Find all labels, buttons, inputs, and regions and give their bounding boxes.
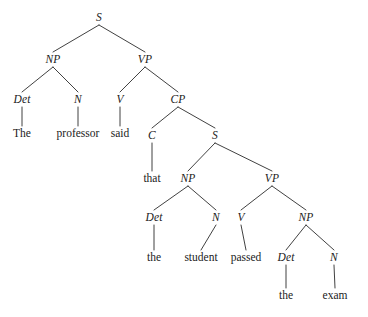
tree-node-np-1: NP <box>45 54 60 66</box>
tree-leaf-word-that: that <box>143 173 160 185</box>
tree-node-s-root: S <box>96 12 102 24</box>
tree-node-c-1: C <box>148 130 156 142</box>
tree-edge <box>145 67 178 92</box>
tree-edge <box>241 225 246 250</box>
tree-node-vp-2: VP <box>265 173 279 185</box>
tree-edge <box>215 143 272 171</box>
tree-edge <box>22 67 53 92</box>
tree-edge <box>201 225 216 250</box>
tree-leaf-word-the-3: the <box>279 290 293 302</box>
tree-node-vp-1: VP <box>138 54 152 66</box>
tree-node-det-1: Det <box>13 94 30 106</box>
tree-edge <box>188 143 215 171</box>
tree-edge <box>53 25 99 52</box>
tree-node-n-3: N <box>330 252 338 264</box>
tree-edge <box>306 225 334 250</box>
tree-edge <box>178 107 215 128</box>
tree-leaf-word-student: student <box>184 252 217 264</box>
tree-leaf-word-prof: professor <box>57 128 100 140</box>
tree-edge <box>53 67 78 92</box>
tree-edge <box>334 265 335 288</box>
tree-edge <box>241 186 272 210</box>
tree-edge <box>99 25 145 52</box>
tree-node-np-3: NP <box>298 212 313 224</box>
tree-node-n-2: N <box>212 212 220 224</box>
tree-node-s-embed: S <box>212 130 218 142</box>
tree-edge <box>286 225 306 250</box>
tree-edges-layer <box>0 0 368 317</box>
tree-leaf-word-said: said <box>111 128 130 140</box>
tree-node-v-2: V <box>237 212 244 224</box>
tree-leaf-word-the-1: The <box>13 128 31 140</box>
tree-edge <box>120 67 145 92</box>
tree-leaf-word-exam: exam <box>323 290 348 302</box>
syntax-tree-figure: SNPVPDetNVCPTheprofessorsaidCSthatNPVPDe… <box>0 0 368 317</box>
tree-edge <box>152 107 178 128</box>
tree-node-det-3: Det <box>277 252 294 264</box>
tree-node-v-1: V <box>116 94 123 106</box>
tree-leaf-word-passed: passed <box>231 252 262 264</box>
tree-node-det-2: Det <box>145 212 162 224</box>
tree-node-np-2: NP <box>180 173 195 185</box>
tree-node-n-1: N <box>74 94 82 106</box>
tree-node-cp-1: CP <box>170 94 185 106</box>
tree-leaf-word-the-2: the <box>147 252 161 264</box>
tree-edge <box>272 186 306 210</box>
tree-edge <box>188 186 216 210</box>
tree-edge <box>154 186 188 210</box>
